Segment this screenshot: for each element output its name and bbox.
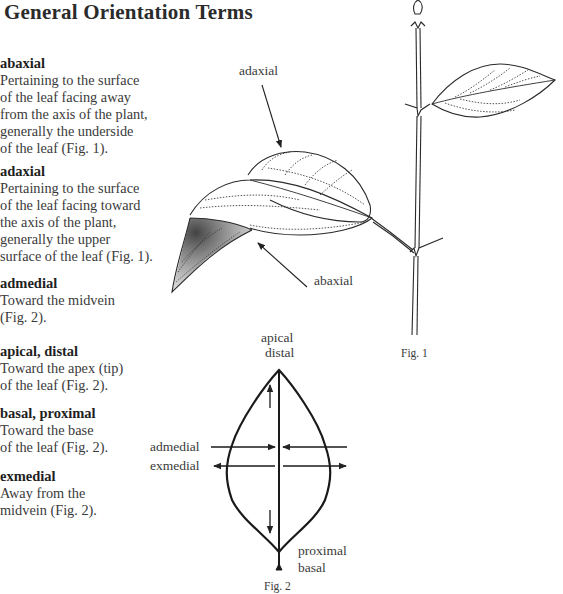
fig2-label-apical: apical <box>261 330 293 345</box>
fig2-label-proximal: proximal <box>298 543 347 558</box>
fig2-label-basal: basal <box>298 560 326 575</box>
abaxial-arrow <box>258 243 307 287</box>
adaxial-arrow <box>262 85 281 147</box>
fig2-label-exmedial: exmedial <box>150 458 199 473</box>
fig2-label-admedial: admedial <box>150 439 199 454</box>
fig1-label-abaxial: abaxial <box>314 273 353 288</box>
fig1-plant-drawing <box>172 0 555 335</box>
illustrations <box>0 0 563 594</box>
fig2-label-distal: distal <box>265 345 294 360</box>
fig1-caption: Fig. 1 <box>401 347 428 359</box>
fig1-label-adaxial: adaxial <box>239 63 278 78</box>
fig2-leaf-diagram <box>227 370 331 570</box>
fig2-caption: Fig. 2 <box>264 580 291 592</box>
